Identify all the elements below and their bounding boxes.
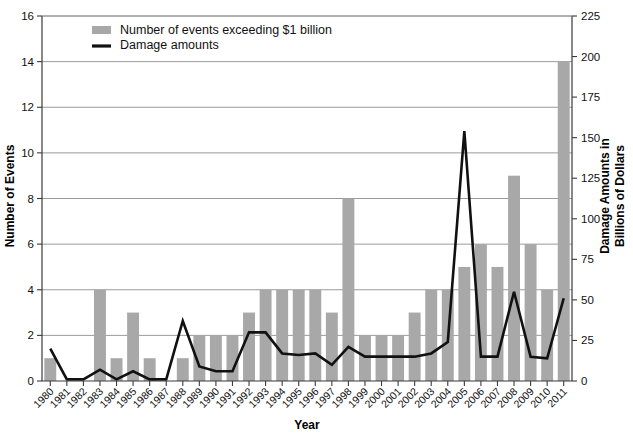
legend-swatch-events (92, 26, 111, 34)
bar-2007 (492, 267, 504, 381)
bar-2010 (541, 290, 553, 381)
y-left-tick-label-0: 0 (28, 375, 34, 387)
bar-1980 (44, 358, 56, 381)
y-right-tick-label-0: 0 (581, 375, 587, 387)
x-tick-label-2011: 2011 (545, 385, 570, 410)
y-left-tick-label-8: 8 (28, 193, 34, 205)
bar-1994 (276, 290, 288, 381)
bar-1996 (309, 290, 321, 381)
y-axis-right-title-line2: Billions of Dollars (613, 145, 627, 247)
bar-2008 (508, 176, 520, 381)
y-right-tick-label-75: 75 (581, 253, 594, 265)
x-axis-title: Year (294, 418, 320, 432)
bar-1993 (260, 290, 272, 381)
bar-2002 (409, 313, 421, 381)
bars-group (44, 62, 569, 381)
y-axis-right-title-line1: Damage Amounts in (598, 138, 612, 254)
y-right-tick-label-225: 225 (581, 10, 600, 22)
bar-1998 (342, 199, 354, 382)
y-right-ticks-group: 0255075100125150175200225 (572, 10, 600, 387)
bar-2009 (525, 244, 537, 381)
bar-2011 (558, 62, 570, 381)
bar-2003 (425, 290, 437, 381)
y-left-tick-label-6: 6 (28, 238, 34, 250)
y-right-tick-label-200: 200 (581, 51, 600, 63)
bar-2001 (392, 335, 404, 381)
y-right-tick-label-25: 25 (581, 334, 594, 346)
dual-axis-bar-line-chart: 0246810121416 0255075100125150175200225 … (0, 0, 633, 433)
bar-1983 (94, 290, 106, 381)
y-left-tick-label-16: 16 (21, 10, 34, 22)
bar-1997 (326, 313, 338, 381)
y-axis-left-title: Number of Events (3, 144, 17, 247)
bar-2005 (458, 267, 470, 381)
bar-1990 (210, 335, 222, 381)
bar-1995 (293, 290, 305, 381)
y-left-tick-label-14: 14 (21, 56, 34, 68)
legend: Number of events exceeding $1 billion Da… (92, 23, 332, 52)
legend-label-events: Number of events exceeding $1 billion (120, 23, 332, 37)
bar-2000 (376, 335, 388, 381)
y-right-tick-label-175: 175 (581, 91, 600, 103)
chart-container: 0246810121416 0255075100125150175200225 … (0, 0, 633, 433)
x-ticks-group: 1980198119821983198419851986198719881989… (31, 381, 570, 410)
y-left-tick-label-2: 2 (28, 329, 34, 341)
bar-1988 (177, 358, 189, 381)
legend-label-damage: Damage amounts (120, 38, 219, 52)
bar-1999 (359, 335, 371, 381)
bar-1992 (243, 313, 255, 381)
y-left-tick-label-10: 10 (21, 147, 34, 159)
y-left-tick-label-12: 12 (21, 101, 34, 113)
y-left-ticks-group: 0246810121416 (21, 10, 42, 387)
y-right-tick-label-50: 50 (581, 294, 594, 306)
y-left-tick-label-4: 4 (28, 284, 35, 296)
